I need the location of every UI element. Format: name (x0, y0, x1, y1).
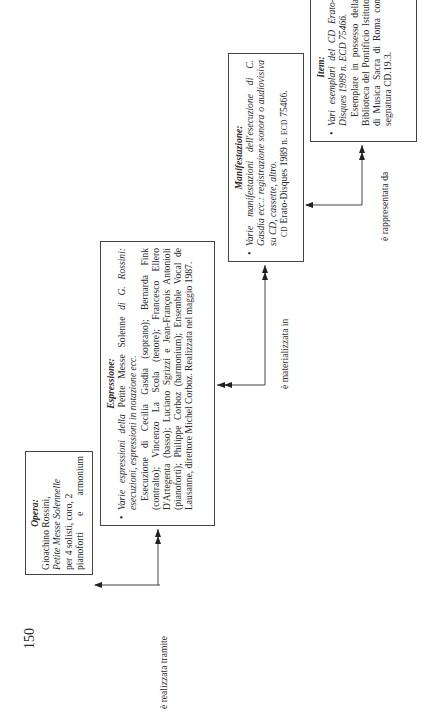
connector-lines (0, 0, 435, 721)
rotated-page: 150 Opera: Gioachino Rossini, Petite Mes… (0, 0, 435, 721)
relation-label-realizzata: è realizzata tramite (158, 636, 169, 709)
relation-label-rappresentata: è rappresentata da (379, 172, 390, 241)
relation-label-materializzata: è materializzata in (279, 319, 290, 389)
